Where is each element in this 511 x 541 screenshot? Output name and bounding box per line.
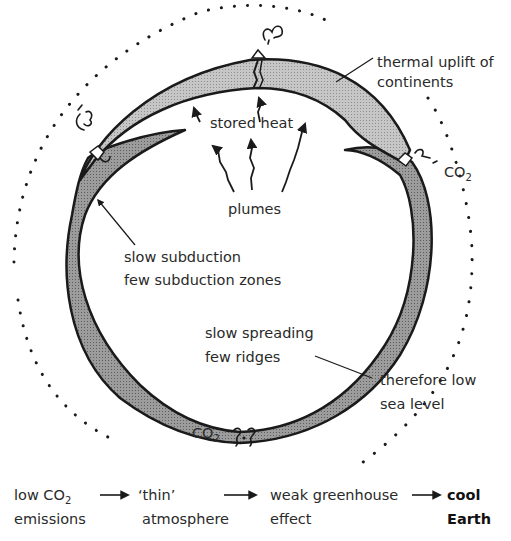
supercontinent-cool-earth-diagram: thermal uplift of continents stored heat… — [0, 0, 511, 541]
volcanic-eruption-icon — [263, 26, 282, 44]
volcanic-eruption-icon — [77, 105, 92, 130]
thermal-uplift-label: thermal uplift of — [377, 54, 495, 70]
thermal-uplift-leader — [336, 58, 373, 82]
subduction-arrow — [98, 200, 135, 245]
diagram-labels: thermal uplift of continents stored heat… — [124, 54, 495, 444]
few-ridges-label: few ridges — [205, 349, 280, 365]
stored-heat-label: stored heat — [210, 115, 293, 131]
flow-step-3-line2: effect — [270, 511, 312, 527]
flow-step-4: cool — [447, 487, 481, 503]
few-subduction-zones-label: few subduction zones — [124, 272, 281, 288]
slow-subduction-label: slow subduction — [124, 249, 241, 265]
flow-step-2-line2: atmosphere — [142, 511, 229, 527]
thermal-uplift-label-2: continents — [377, 74, 453, 90]
sea-level-leader — [315, 356, 372, 378]
plumes-label: plumes — [228, 201, 281, 217]
low-sea-level-label-2: sea level — [380, 396, 444, 412]
flow-step-2: ‘thin’ — [138, 487, 175, 503]
plume-arrows — [194, 98, 305, 192]
flow-step-4-line2: Earth — [447, 511, 491, 527]
co2-right-label: CO2 — [444, 164, 472, 183]
low-sea-level-label: therefore low — [380, 372, 476, 388]
flow-step-1: low CO2 — [14, 487, 71, 506]
flow-step-3: weak greenhouse — [270, 487, 398, 503]
causal-flow-chain: low CO2 emissions ‘thin’ atmosphere weak… — [14, 487, 491, 527]
volcanic-eruption-icon — [415, 150, 437, 163]
slow-spreading-label: slow spreading — [205, 325, 314, 341]
flow-step-1-line2: emissions — [14, 511, 86, 527]
